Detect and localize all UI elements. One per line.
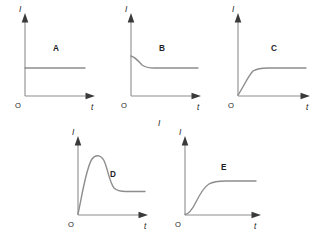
panel-d-y-axis-arrowhead bbox=[75, 136, 82, 146]
panel-b-y-axis-label: I bbox=[125, 5, 128, 14]
panel-a-origin-label: O bbox=[15, 101, 21, 110]
panel-e-y-axis-label: I bbox=[179, 128, 182, 137]
panel-e-y-axis-arrowhead bbox=[182, 136, 189, 146]
panel-e-origin-label: O bbox=[175, 220, 181, 229]
panel-d-x-axis-arrowhead bbox=[139, 212, 149, 219]
panel-c: I t O C bbox=[228, 5, 310, 112]
panel-c-origin-label: O bbox=[228, 101, 234, 110]
panel-a-x-axis-label: t bbox=[91, 103, 94, 112]
panel-c-y-axis-label: I bbox=[232, 5, 235, 14]
panel-d-x-axis-label: t bbox=[144, 222, 147, 231]
panel-e-x-axis-label: t bbox=[254, 222, 257, 231]
panel-b: I t O B bbox=[121, 5, 201, 112]
panel-a: I t O A bbox=[15, 5, 95, 112]
panel-a-label: A bbox=[53, 44, 59, 53]
panel-b-origin-label: O bbox=[121, 101, 127, 110]
panel-e: I t O E bbox=[175, 128, 261, 231]
figure-container: I t O A I t O B I t O C bbox=[0, 0, 327, 234]
panel-d-label: D bbox=[110, 170, 116, 179]
panel-a-x-axis-arrowhead bbox=[86, 93, 96, 100]
panel-e-curve bbox=[185, 181, 256, 215]
panel-e-x-axis-arrowhead bbox=[252, 212, 262, 219]
stray-axis-label: I bbox=[158, 119, 161, 128]
panel-b-label: B bbox=[159, 44, 165, 53]
panel-a-y-axis-arrowhead bbox=[22, 13, 29, 23]
panel-d-y-axis-label: I bbox=[72, 128, 75, 137]
panel-b-x-axis-label: t bbox=[197, 103, 200, 112]
panel-c-curve bbox=[238, 68, 306, 95]
panel-d-curve bbox=[78, 156, 145, 214]
physics-current-time-graphs: I t O A I t O B I t O C bbox=[0, 0, 327, 234]
panel-c-label: C bbox=[271, 44, 277, 53]
panel-d: I t O D bbox=[68, 128, 148, 231]
panel-a-y-axis-label: I bbox=[19, 5, 22, 14]
panel-c-x-axis-arrowhead bbox=[301, 93, 311, 100]
panel-b-y-axis-arrowhead bbox=[128, 13, 135, 23]
panel-b-x-axis-arrowhead bbox=[192, 93, 202, 100]
panel-c-y-axis-arrowhead bbox=[235, 13, 242, 23]
panel-e-label: E bbox=[221, 163, 227, 172]
panel-b-curve bbox=[131, 56, 198, 68]
panel-d-origin-label: O bbox=[68, 220, 74, 229]
panel-c-x-axis-label: t bbox=[306, 103, 309, 112]
